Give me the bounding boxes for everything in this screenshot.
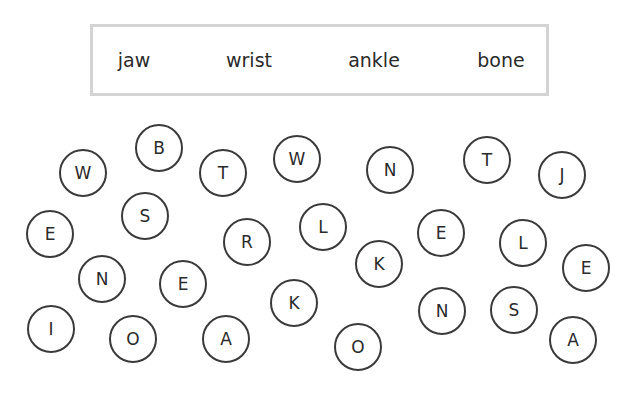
letter-circle[interactable]: A: [202, 315, 250, 363]
letter-label: E: [581, 260, 592, 277]
letter-label: L: [518, 235, 527, 252]
letter-label: A: [567, 332, 579, 349]
letter-circle[interactable]: R: [223, 218, 271, 266]
letter-label: N: [384, 162, 397, 179]
letter-label: L: [318, 219, 327, 236]
letter-circle[interactable]: S: [121, 192, 169, 240]
letter-label: N: [436, 303, 449, 320]
letter-label: O: [351, 339, 364, 356]
letter-label: I: [48, 321, 53, 338]
letter-circle[interactable]: S: [490, 286, 538, 334]
letter-circle[interactable]: L: [499, 219, 547, 267]
letter-label: K: [288, 295, 299, 312]
letter-label: E: [178, 276, 189, 293]
letter-label: B: [153, 140, 165, 157]
letter-circle[interactable]: N: [78, 255, 126, 303]
word-bank-item: bone: [477, 27, 524, 93]
letter-label: E: [436, 225, 447, 242]
letter-circle[interactable]: J: [538, 151, 586, 199]
letter-label: T: [218, 165, 228, 182]
letter-label: E: [45, 226, 56, 243]
letter-label: N: [96, 271, 109, 288]
letter-label: S: [509, 302, 520, 319]
letter-circle[interactable]: E: [562, 244, 610, 292]
letter-circle[interactable]: N: [366, 146, 414, 194]
letter-circle[interactable]: O: [334, 323, 382, 371]
letter-label: W: [75, 165, 92, 182]
letter-label: W: [289, 151, 306, 168]
letter-circle[interactable]: B: [135, 124, 183, 172]
letter-circle[interactable]: K: [355, 240, 403, 288]
letter-circle[interactable]: T: [463, 136, 511, 184]
letter-label: O: [126, 331, 139, 348]
word-bank-item: jaw: [118, 27, 150, 93]
letter-circle[interactable]: W: [59, 149, 107, 197]
letter-circle[interactable]: K: [270, 279, 318, 327]
word-bank-item: wrist: [226, 27, 272, 93]
letter-circle[interactable]: E: [159, 260, 207, 308]
letter-label: R: [241, 234, 253, 251]
letter-circle[interactable]: E: [26, 210, 74, 258]
letter-circle[interactable]: W: [273, 135, 321, 183]
letter-circle[interactable]: I: [27, 305, 75, 353]
word-bank: jawwristanklebone: [90, 24, 549, 96]
letter-label: A: [220, 331, 232, 348]
letter-circle[interactable]: A: [549, 316, 597, 364]
letter-circle[interactable]: E: [417, 209, 465, 257]
letter-label: T: [482, 152, 492, 169]
letter-circle[interactable]: N: [418, 287, 466, 335]
letter-label: S: [140, 208, 151, 225]
letter-circle[interactable]: T: [199, 149, 247, 197]
letter-label: K: [373, 256, 384, 273]
letter-circle[interactable]: L: [299, 203, 347, 251]
letter-circle[interactable]: O: [109, 315, 157, 363]
letter-label: J: [559, 167, 564, 184]
word-bank-item: ankle: [348, 27, 400, 93]
